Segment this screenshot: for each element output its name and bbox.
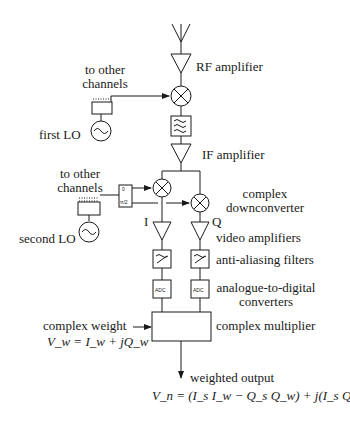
oscillator-icon-2 [79, 222, 99, 242]
video-amplifier-i [153, 222, 171, 240]
adc-q-label: ADC [193, 287, 204, 293]
adc-label-a: analogue-to-digital [214, 281, 318, 295]
q-branch-label: Q [212, 215, 221, 229]
second-lo-label: second LO [19, 232, 76, 246]
weighted-output-label: weighted output [190, 371, 274, 385]
complex-label: complex [215, 187, 315, 201]
complex-weight-label: complex weight [43, 319, 126, 333]
mixer-icon-q [191, 194, 209, 212]
to-other-channels-2a: to other [40, 167, 120, 181]
weight-equation: V_w = I_w + jQ_w [47, 335, 148, 349]
mixer-icon-1 [171, 86, 191, 106]
anti-aliasing-label: anti-aliasing filters [216, 253, 314, 267]
complex-multiplier-label: complex multiplier [216, 319, 315, 333]
rf-amplifier-label: RF amplifier [196, 60, 263, 74]
oscillator-icon-1 [91, 121, 111, 141]
phase-0-label: 0 [122, 186, 125, 192]
antenna-icon [172, 24, 190, 44]
adc-i-label: ADC [155, 287, 166, 293]
splitter-icon-2 [78, 202, 100, 215]
downconverter-label: downconverter [215, 201, 315, 215]
bandpass-filter-icon [171, 116, 191, 136]
to-other-channels-2b: channels [40, 181, 120, 195]
video-amplifier-q [191, 222, 209, 240]
to-other-channels-1a: to other [60, 63, 150, 77]
mixer-icon-i [153, 179, 171, 197]
if-amplifier-icon [171, 144, 191, 163]
i-branch-label: I [144, 215, 148, 229]
output-equation: V_n = (I_s I_w − Q_s Q_w) + j(I_s Q_w + … [152, 389, 350, 403]
splitter-icon-1 [92, 102, 112, 114]
rf-amplifier-icon [171, 54, 191, 73]
phase-90-label: π/2 [120, 199, 128, 205]
video-amplifiers-label: video amplifiers [216, 231, 301, 245]
adc-label-b: converters [214, 295, 318, 309]
first-lo-label: first LO [39, 128, 81, 142]
if-amplifier-label: IF amplifier [202, 148, 264, 162]
complex-multiplier-block [152, 312, 211, 341]
to-other-channels-1b: channels [60, 77, 150, 91]
